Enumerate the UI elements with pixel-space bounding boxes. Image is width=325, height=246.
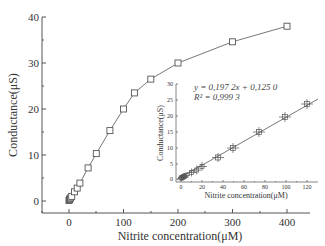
data-point-marker bbox=[175, 60, 181, 66]
x-tick-label: 200 bbox=[170, 216, 187, 228]
inset-y-tick-label: 15 bbox=[167, 129, 173, 135]
x-tick-label: 0 bbox=[66, 216, 72, 228]
main-x-tick-labels: 0 100 200 300 400 bbox=[66, 216, 296, 228]
inset-y-tick-label: 30 bbox=[167, 81, 173, 87]
inset-x-tick-label: 60 bbox=[241, 184, 247, 190]
inset-x-axis-title: Nitrite concentration(μM) bbox=[204, 191, 287, 200]
inset-x-tick-label: 20 bbox=[199, 184, 205, 190]
inset-x-tick-label: 40 bbox=[220, 184, 226, 190]
inset-x-tick-labels: 0 20 40 60 80 100 120 bbox=[180, 184, 312, 190]
inset-x-tick-label: 0 bbox=[180, 184, 183, 190]
fit-r-squared: R² = 0,999 3 bbox=[193, 92, 240, 102]
y-tick-label: 40 bbox=[28, 11, 40, 23]
x-tick-label: 100 bbox=[115, 216, 132, 228]
fit-equation: y = 0,197 2x + 0,125 0 bbox=[193, 82, 278, 92]
main-y-axis-title: Conductance(μS) bbox=[6, 73, 20, 157]
inset-y-tick-label: 0 bbox=[170, 176, 173, 182]
data-point-marker bbox=[107, 128, 113, 134]
main-y-tick-labels: 40 30 20 10 0 bbox=[28, 11, 40, 207]
inset-y-tick-labels: 30 25 20 15 10 5 0 bbox=[167, 81, 173, 182]
inset-y-tick-label: 20 bbox=[167, 113, 173, 119]
data-point-marker bbox=[77, 180, 83, 186]
conductance-chart: 40 30 20 10 0 0 100 200 300 400 Nitrite … bbox=[0, 0, 325, 246]
data-point-marker bbox=[148, 76, 154, 82]
inset-chart: 30 25 20 15 10 5 0 0 20 40 60 80 100 120… bbox=[156, 81, 320, 200]
inset-y-tick-label: 25 bbox=[167, 97, 173, 103]
inset-x-tick-label: 100 bbox=[282, 184, 291, 190]
x-tick-label: 300 bbox=[224, 216, 241, 228]
data-point-marker bbox=[284, 23, 290, 29]
inset-y-axis-title: Conductance(μS) bbox=[156, 105, 165, 161]
x-tick-label: 400 bbox=[279, 216, 296, 228]
inset-y-tick-label: 5 bbox=[170, 161, 173, 167]
data-point-marker bbox=[230, 39, 236, 45]
y-tick-label: 0 bbox=[34, 195, 40, 207]
y-tick-label: 10 bbox=[28, 149, 40, 161]
inset-y-tick-label: 10 bbox=[167, 145, 173, 151]
y-tick-label: 20 bbox=[28, 103, 40, 115]
main-x-axis-title: Nitrite concentration(μM) bbox=[118, 229, 243, 243]
inset-x-tick-label: 80 bbox=[262, 184, 268, 190]
data-point-marker bbox=[121, 106, 127, 112]
data-point-marker bbox=[85, 165, 91, 171]
inset-x-tick-label: 120 bbox=[303, 184, 312, 190]
data-point-marker bbox=[131, 90, 137, 96]
y-tick-label: 30 bbox=[28, 57, 40, 69]
data-point-marker bbox=[93, 151, 99, 157]
